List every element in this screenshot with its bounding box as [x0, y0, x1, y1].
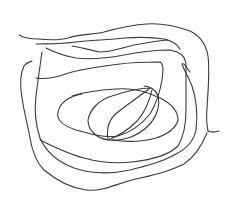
scribble-sketch: [0, 0, 233, 208]
